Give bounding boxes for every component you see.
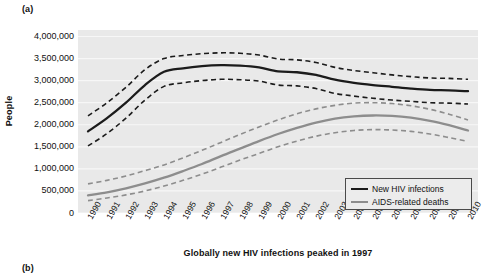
x-tick-label: 1990	[85, 200, 103, 221]
legend-swatch-icon-deaths	[351, 201, 368, 203]
chart-legend: New HIV infections AIDS-related deaths	[345, 178, 472, 210]
x-tick-label: 1993	[142, 200, 160, 221]
legend-item-new-hiv-infections: New HIV infections	[351, 182, 467, 195]
x-tick-label: 1991	[104, 200, 122, 221]
x-tick-label: 1997	[218, 200, 236, 221]
x-axis-tick-labels: 1990199119921993199419951996199719981999…	[0, 0, 486, 279]
chart-figure: People 4,000,0003,500,0003,000,0002,500,…	[0, 0, 486, 279]
x-tick-label: 1994	[161, 200, 179, 221]
legend-label-infections: New HIV infections	[372, 184, 444, 194]
x-tick-label: 2000	[275, 200, 293, 221]
x-tick-label: 2001	[294, 200, 312, 221]
x-tick-label: 2002	[313, 200, 331, 221]
chart-caption: Globally new HIV infections peaked in 19…	[78, 248, 478, 258]
legend-item-aids-related-deaths: AIDS-related deaths	[351, 195, 467, 208]
x-tick-label: 1995	[180, 200, 198, 221]
x-tick-label: 1996	[199, 200, 217, 221]
legend-label-deaths: AIDS-related deaths	[372, 197, 449, 207]
x-tick-label: 1999	[256, 200, 274, 221]
x-tick-label: 1998	[237, 200, 255, 221]
legend-swatch-icon-infections	[351, 188, 368, 190]
x-tick-label: 1992	[123, 200, 141, 221]
